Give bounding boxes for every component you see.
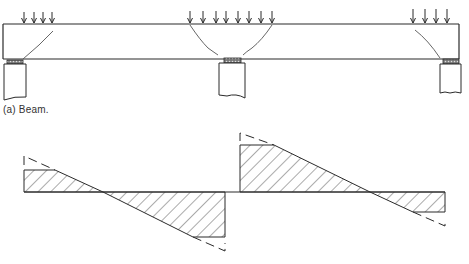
beam-figure: [0, 0, 469, 264]
load-arrows-left: [22, 12, 55, 23]
figure-caption-beam: (a) Beam.: [3, 104, 49, 115]
shear-span-1: [24, 170, 225, 237]
arrow-down-icon: [270, 11, 275, 23]
arrow-down-icon: [247, 11, 252, 23]
arrow-down-icon: [236, 11, 241, 23]
arrow-down-icon: [445, 9, 450, 23]
arrow-down-icon: [188, 11, 193, 23]
arrow-down-icon: [423, 9, 428, 23]
arrow-down-icon: [32, 12, 37, 23]
support-middle: [219, 58, 245, 98]
arrow-down-icon: [50, 12, 55, 23]
crack-lines: [23, 25, 440, 59]
shear-diagram: [24, 133, 445, 251]
arrow-down-icon: [224, 11, 229, 23]
arrow-down-icon: [214, 11, 219, 23]
arrow-down-icon: [41, 12, 46, 23]
shear-span-2: [240, 145, 445, 212]
arrow-down-icon: [434, 9, 439, 23]
support-right: [440, 59, 461, 93]
arrow-down-icon: [411, 9, 416, 23]
arrow-down-icon: [22, 12, 27, 23]
load-arrows-right: [411, 9, 450, 23]
arrow-down-icon: [259, 11, 264, 23]
arrow-down-icon: [201, 11, 206, 23]
load-arrows-middle: [188, 11, 275, 23]
beam: [3, 24, 459, 59]
support-left: [4, 60, 26, 100]
